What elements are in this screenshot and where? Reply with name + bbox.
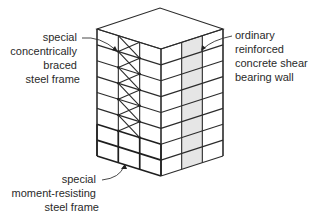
brace-diagonal xyxy=(118,106,139,115)
floor-line-left xyxy=(97,124,161,144)
brace-diagonal xyxy=(118,74,139,83)
floor-line-left xyxy=(97,108,161,128)
moment-frame-label: special moment-resisting steel frame xyxy=(12,173,99,213)
shear-wall-label: ordinary reinforced concrete shear beari… xyxy=(235,29,311,83)
brace-diagonal xyxy=(118,122,139,131)
floor-line-left xyxy=(97,61,161,81)
building-isometric xyxy=(97,8,223,176)
floor-line-left xyxy=(97,156,161,176)
braced-frame-label: special concentrically braced steel fram… xyxy=(10,31,80,85)
moment-frame-leader xyxy=(102,166,124,180)
floor-line-left xyxy=(97,77,161,97)
floor-line-left xyxy=(97,93,161,113)
brace-joint xyxy=(138,136,141,139)
brace-diagonal xyxy=(118,42,139,51)
building-diagram: special concentrically braced steel fram… xyxy=(0,0,312,217)
braced-frame-leader xyxy=(82,38,116,50)
floor-line-left xyxy=(97,29,161,49)
brace-diagonal xyxy=(118,90,139,99)
floor-line-left xyxy=(97,45,161,65)
brace-joint xyxy=(117,130,120,133)
roof xyxy=(97,8,223,49)
brace-diagonal xyxy=(118,58,139,67)
floor-line-left xyxy=(97,140,161,160)
